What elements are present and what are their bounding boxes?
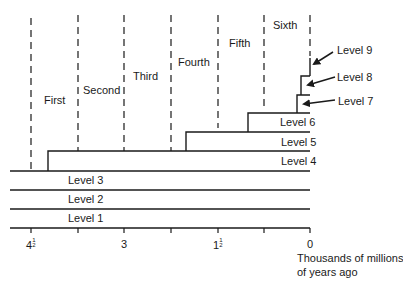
tick-label-4-5: 412: [26, 238, 35, 251]
level-label-8: Level 8: [337, 71, 372, 83]
level-arrows: [304, 52, 335, 104]
fraction-denominator: 2: [219, 243, 222, 248]
axis-ticks: [31, 228, 310, 233]
level-label-6: Level 6: [280, 116, 315, 128]
level-label-9: Level 9: [337, 44, 372, 56]
period-label-sixth: Sixth: [273, 19, 297, 31]
tick-label-3: 3: [121, 238, 127, 250]
arrow-level-8-icon: [308, 77, 335, 85]
tick-fraction: 12: [219, 238, 222, 248]
level-label-7: Level 7: [338, 95, 373, 107]
period-label-first: First: [44, 94, 65, 106]
period-label-second: Second: [83, 84, 120, 96]
level-lines: [10, 58, 310, 228]
period-label-fifth: Fifth: [229, 37, 250, 49]
axis-unit-line-1: Thousands of millions: [297, 252, 403, 264]
period-label-third: Third: [133, 70, 158, 82]
period-dividers: [31, 15, 310, 171]
arrow-level-9-icon: [314, 52, 333, 64]
level-label-1: Level 1: [68, 212, 103, 224]
period-label-fourth: Fourth: [178, 56, 210, 68]
arrow-level-7-icon: [304, 100, 335, 104]
level-label-3: Level 3: [68, 174, 103, 186]
level-label-2: Level 2: [68, 193, 103, 205]
level-label-4: Level 4: [281, 155, 316, 167]
level-label-5: Level 5: [281, 136, 316, 148]
tick-fraction: 12: [32, 238, 35, 248]
fraction-denominator: 2: [32, 243, 35, 248]
tick-label-0: 0: [307, 238, 313, 250]
level-4-step: [48, 151, 310, 171]
tick-label-1-5: 112: [213, 238, 222, 251]
axis-unit-line-2: of years ago: [297, 266, 358, 278]
